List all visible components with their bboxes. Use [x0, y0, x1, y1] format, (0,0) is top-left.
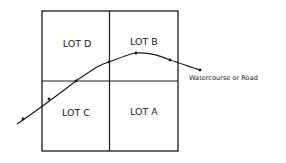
- lot-diagram: LOT D LOT B LOT C LOT A Watercourse or R…: [0, 0, 286, 163]
- lot-c-label: LOT C: [62, 107, 90, 118]
- lot-a-label: LOT A: [130, 106, 158, 117]
- watercourse-annotation: Watercourse or Road: [189, 74, 258, 82]
- lot-d-label: LOT D: [63, 38, 92, 49]
- lot-b-label: LOT B: [130, 36, 158, 47]
- watercourse-curve: [17, 53, 200, 124]
